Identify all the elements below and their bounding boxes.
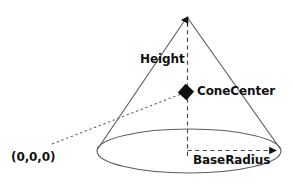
height-label: Height (140, 53, 185, 66)
origin-label: (0,0,0) (11, 151, 55, 164)
origin-leader-line (52, 94, 181, 144)
base-radius-label: BaseRadius (193, 154, 270, 167)
cone-diagram: Height ConeCenter BaseRadius (0,0,0) (0, 0, 293, 185)
cone-center-label: ConeCenter (197, 85, 275, 98)
cone-center-diamond-marker (178, 84, 194, 100)
